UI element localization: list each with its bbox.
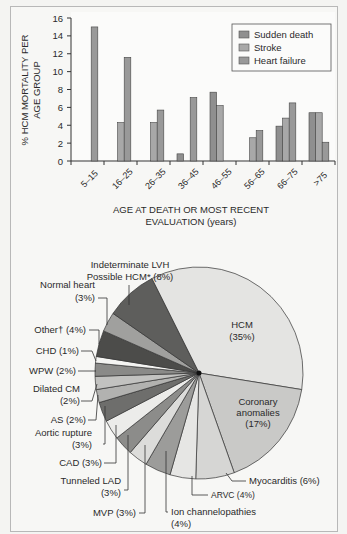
label-lvh-line2: Possible HCM* (8%)	[87, 271, 174, 282]
bar-sudden-death	[276, 126, 283, 161]
label-ion-channelopathies-line1: Ion channelopathies	[171, 506, 256, 517]
x-tick-label: 26–35	[143, 166, 168, 191]
x-ticks: 5–1516–2526–3536–4546–5556–6566–75>75	[71, 161, 335, 191]
label-chd: CHD (1%)	[36, 345, 79, 356]
bar-heart-failure	[190, 98, 197, 161]
label-wpw: WPW (2%)	[29, 365, 76, 376]
label-aortic-rupture-line2: (3%)	[72, 439, 92, 450]
label-other: Other† (4%)	[34, 324, 86, 335]
x-axis-label-line2: EVALUATION (years)	[146, 216, 237, 227]
bar-heart-failure	[91, 27, 98, 161]
pie-center	[197, 371, 202, 376]
legend-swatch-heart-failure	[239, 57, 249, 64]
y-tick-label: 2	[58, 138, 63, 149]
label-coronary-line1: Coronary	[238, 396, 277, 407]
label-tunneled-lad-line1: Tunneled LAD	[61, 475, 122, 486]
label-ion-channelopathies-line2: (4%)	[171, 518, 191, 529]
bar-stroke	[118, 123, 125, 161]
y-tick-label: 14	[52, 30, 63, 41]
bar-stroke	[316, 113, 323, 161]
y-axis-label-line1: % HCM MORTALITY PER	[19, 34, 30, 145]
label-cad: CAD (3%)	[59, 457, 102, 468]
label-tunneled-lad-line2: (3%)	[101, 487, 121, 498]
bar-sudden-death	[309, 113, 316, 161]
bar-heart-failure	[157, 110, 164, 161]
label-dilated-cm-line2: (2%)	[60, 395, 80, 406]
label-normal-heart-line2: (3%)	[75, 292, 95, 303]
label-myocarditis: Myocarditis (6%)	[249, 475, 320, 486]
y-tick-label: 12	[52, 48, 63, 59]
y-ticks: 0246810121416	[52, 13, 71, 167]
label-hcm-line2: (35%)	[229, 331, 254, 342]
legend: Sudden death Stroke Heart failure	[232, 24, 331, 71]
label-aortic-rupture-line1: Aortic rupture	[35, 427, 92, 438]
x-tick-label: >75	[311, 170, 329, 188]
bar-heart-failure	[322, 142, 329, 161]
label-hcm-line1: HCM	[231, 319, 253, 330]
label-arvc: ARVC (4%)	[211, 490, 255, 500]
y-axis-label-line2: AGE GROUP	[31, 61, 42, 119]
y-tick-label: 4	[58, 120, 63, 131]
x-axis-label-line1: AGE AT DEATH OR MOST RECENT	[113, 204, 269, 215]
legend-swatch-stroke	[239, 44, 249, 51]
x-tick-label: 16–25	[110, 166, 135, 191]
bar-stroke	[283, 118, 290, 161]
y-tick-label: 6	[58, 102, 63, 113]
y-tick-label: 10	[52, 66, 63, 77]
bar-stroke	[250, 138, 257, 161]
bar-heart-failure	[124, 57, 131, 161]
label-coronary-line3: (17%)	[245, 418, 270, 429]
label-mvp: MVP (3%)	[93, 507, 136, 518]
legend-swatch-sudden-death	[239, 31, 249, 38]
y-tick-label: 0	[58, 156, 63, 167]
label-lvh-line1: Indeterminate LVH	[91, 259, 170, 270]
x-tick-label: 36–45	[176, 166, 201, 191]
legend-label-stroke: Stroke	[254, 42, 281, 53]
bar-stroke	[217, 106, 224, 161]
pie-chart: HCM (35%) Coronary anomalies (17%) Indet…	[29, 259, 320, 529]
x-tick-label: 56–65	[242, 166, 267, 191]
y-tick-label: 16	[52, 13, 63, 24]
legend-label-sudden-death: Sudden death	[254, 29, 313, 40]
x-tick-label: 5–15	[79, 168, 100, 189]
bar-stroke	[151, 123, 158, 161]
bar-heart-failure	[256, 131, 263, 161]
x-tick-label: 66–75	[275, 166, 300, 191]
label-coronary-line2: anomalies	[236, 407, 280, 418]
label-normal-heart-line1: Normal heart	[40, 279, 95, 290]
legend-label-heart-failure: Heart failure	[254, 55, 306, 66]
bar-sudden-death	[177, 154, 184, 161]
label-dilated-cm-line1: Dilated CM	[33, 383, 80, 394]
bar-heart-failure	[289, 103, 296, 161]
y-tick-label: 8	[58, 84, 63, 95]
label-as: AS (2%)	[51, 414, 86, 425]
bar-chart: 0246810121416 5–1516–2526–3536–4546–5556…	[19, 12, 335, 227]
bar-sudden-death	[210, 92, 217, 161]
figure-canvas: 0246810121416 5–1516–2526–3536–4546–5556…	[0, 0, 347, 534]
x-tick-label: 46–55	[209, 166, 234, 191]
